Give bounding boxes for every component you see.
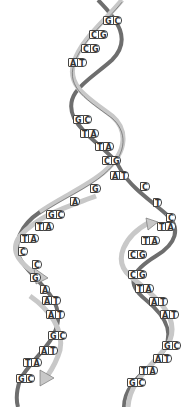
dna-replication-diagram: GCCGCGATGCTATACGATGCTATACCGAATATGCATTAGC… xyxy=(0,0,194,407)
base-pair: TA xyxy=(95,142,114,151)
base-label: A xyxy=(103,142,113,151)
base-pair: G xyxy=(30,273,41,282)
base-pair: TA xyxy=(23,358,42,367)
base-pair: AT xyxy=(149,297,168,306)
base-pair: AT xyxy=(110,171,129,180)
base-label: G xyxy=(103,16,114,25)
base-label: G xyxy=(162,341,173,350)
base-pair: TA xyxy=(35,222,54,231)
base-pair: AT xyxy=(68,58,87,67)
base-label: G xyxy=(137,270,148,279)
base-pair: C xyxy=(32,260,42,269)
unpaired-base: G xyxy=(90,184,101,193)
base-label: A xyxy=(28,234,38,243)
base-pair: AT xyxy=(160,310,179,319)
base-label: C xyxy=(137,378,147,387)
base-label: T xyxy=(169,310,178,319)
base-label: G xyxy=(98,30,109,39)
base-pair: TA xyxy=(135,284,154,293)
base-pair: AT xyxy=(39,346,58,355)
base-label: G xyxy=(16,374,27,383)
unpaired-base: C xyxy=(166,213,176,222)
base-pair: TA xyxy=(139,366,158,375)
base-label: G xyxy=(90,184,101,193)
base-label: C xyxy=(18,247,28,256)
base-label: G xyxy=(48,331,59,340)
base-pair: GC xyxy=(162,341,181,350)
base-pair: TA xyxy=(157,222,176,231)
base-pair: CG xyxy=(89,30,108,39)
base-label: T xyxy=(77,58,86,67)
base-pair: GC xyxy=(127,378,146,387)
base-label: G xyxy=(90,44,101,53)
base-label: T xyxy=(48,346,57,355)
base-label: A xyxy=(88,129,98,138)
base-label: C xyxy=(113,16,123,25)
base-pair: CG xyxy=(128,270,147,279)
base-label: C xyxy=(83,115,93,124)
base-label: G xyxy=(30,273,41,282)
parent-strand-light xyxy=(40,0,123,212)
base-label: G xyxy=(137,250,148,259)
base-label: G xyxy=(127,378,138,387)
unpaired-base: T xyxy=(153,198,162,207)
base-label: A xyxy=(43,222,53,231)
base-label: C xyxy=(58,331,68,340)
base-pair: C xyxy=(18,247,28,256)
base-label: A xyxy=(40,285,50,294)
base-label: T xyxy=(55,310,64,319)
base-label: C xyxy=(26,374,36,383)
base-label: T xyxy=(119,171,128,180)
base-label: G xyxy=(111,156,122,165)
base-pair: TA xyxy=(20,234,39,243)
base-label: C xyxy=(32,260,42,269)
base-label: A xyxy=(149,236,159,245)
parent-strand-dark xyxy=(71,0,166,214)
base-label: C xyxy=(140,182,150,191)
base-pair: TA xyxy=(80,129,99,138)
unpaired-base: C xyxy=(140,182,150,191)
base-pair: GC xyxy=(73,115,92,124)
base-pair: CG xyxy=(81,44,100,53)
base-pair: A xyxy=(40,285,50,294)
base-pair: GC xyxy=(46,210,65,219)
base-label: C xyxy=(56,210,66,219)
base-pair: AT xyxy=(153,354,172,363)
base-label: T xyxy=(153,198,162,207)
base-label: A xyxy=(165,222,175,231)
base-label: G xyxy=(46,210,57,219)
base-label: C xyxy=(172,341,182,350)
base-label: A xyxy=(143,284,153,293)
base-pair: AT xyxy=(42,296,61,305)
base-label: G xyxy=(73,115,84,124)
base-pair: GC xyxy=(48,331,67,340)
base-pair: TA xyxy=(141,236,160,245)
base-label: A xyxy=(70,197,80,206)
base-pair: GC xyxy=(16,374,35,383)
base-label: A xyxy=(147,366,157,375)
base-label: T xyxy=(51,296,60,305)
base-label: A xyxy=(31,358,41,367)
base-pair: GC xyxy=(103,16,122,25)
base-pair: CG xyxy=(128,250,147,259)
base-label: C xyxy=(166,213,176,222)
unpaired-base: A xyxy=(70,197,80,206)
base-pair: AT xyxy=(46,310,65,319)
base-label: T xyxy=(162,354,171,363)
base-pair: CG xyxy=(102,156,121,165)
base-label: T xyxy=(158,297,167,306)
